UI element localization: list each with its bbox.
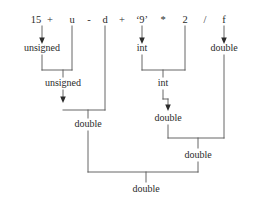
expr-operator-divide: / — [204, 15, 207, 26]
arrowhead-int2-to-double — [165, 105, 171, 112]
type-node-double-mid: double — [154, 113, 181, 123]
type-node-double-1: double — [210, 43, 237, 53]
expr-operator-minus: - — [87, 15, 91, 26]
expr-token-d: d — [102, 15, 107, 26]
type-node-int-1: int — [137, 43, 148, 53]
type-node-double-final: double — [132, 184, 159, 194]
expr-token-f: f — [222, 15, 226, 26]
expr-operator-plus-1: + — [47, 15, 53, 26]
type-node-double-left: double — [74, 119, 101, 129]
type-promotion-diagram: 15 + u - d + ‘9’ * 2 / f unsigned int do… — [0, 0, 256, 206]
type-node-double-right: double — [184, 150, 211, 160]
expr-operator-plus-2: + — [119, 15, 125, 26]
expr-token-u: u — [69, 15, 74, 26]
diagram-connector-lines — [0, 0, 256, 206]
type-node-unsigned-1: unsigned — [24, 43, 60, 53]
expr-token-15: 15 — [31, 15, 42, 26]
type-node-unsigned-2: unsigned — [45, 78, 81, 88]
type-node-int-2: int — [158, 78, 169, 88]
expr-token-2: 2 — [182, 15, 187, 26]
expr-token-char-9: ‘9’ — [136, 15, 148, 26]
arrowhead-unsigned2-down — [60, 97, 66, 104]
expr-operator-multiply: * — [160, 15, 165, 26]
